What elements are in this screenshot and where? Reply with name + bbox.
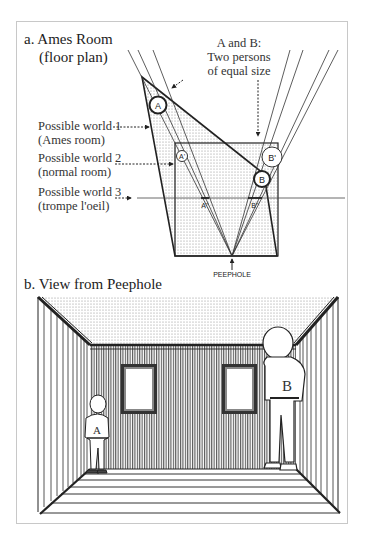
panel-b-title: b. View from Peephole: [24, 276, 162, 292]
marker-a-dprime: A'': [201, 202, 208, 209]
note-line-3: of equal size: [207, 64, 271, 78]
window-right: [222, 364, 257, 414]
panel-a-subtitle: (floor plan): [39, 49, 108, 66]
world-3-label: Possible world 3: [38, 185, 121, 199]
ames-room-figure: a. Ames Room (floor plan) A and B: Two p…: [0, 0, 365, 543]
marker-b: B: [259, 175, 265, 185]
note-line-1: A and B:: [217, 36, 261, 50]
world-3-sub: (trompe l'oeil): [38, 199, 109, 213]
person-b-label: B: [282, 378, 292, 394]
panel-b-room-view: b. View from Peephole: [24, 276, 340, 514]
panel-a-floor-plan: a. Ames Room (floor plan) A and B: Two p…: [24, 31, 345, 278]
peephole-label: PEEPHOLE: [213, 271, 251, 278]
marker-a-prime: A': [179, 153, 185, 160]
world-2-sub: (normal room): [38, 165, 111, 179]
panel-a-title: a. Ames Room: [24, 31, 113, 47]
marker-b-dprime: B'': [251, 202, 258, 209]
world-2-label: Possible world 2: [38, 151, 121, 165]
marker-a: A: [155, 101, 161, 111]
note-line-2: Two persons: [207, 50, 270, 64]
world-1-sub: (Ames room): [38, 133, 105, 147]
world-1-label: Possible world 1: [38, 119, 121, 133]
person-a-label: A: [93, 424, 101, 436]
marker-b-prime: B': [268, 153, 276, 163]
window-left: [121, 364, 157, 414]
